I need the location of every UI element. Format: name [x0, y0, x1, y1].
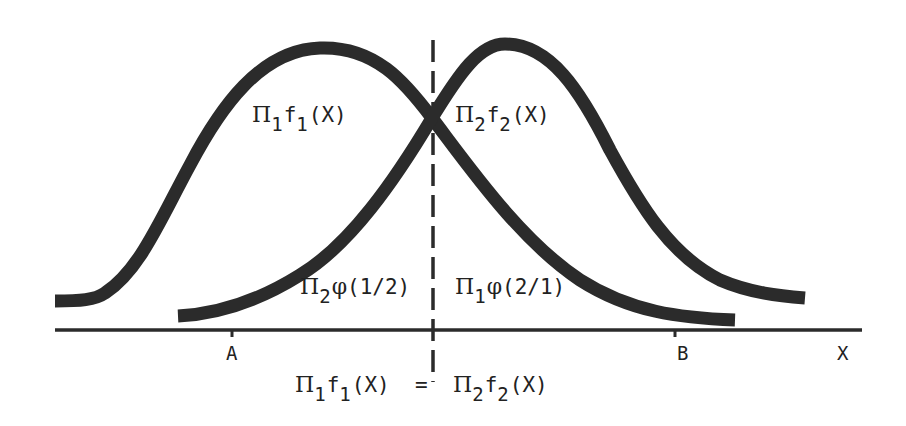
boundary-equation: Π1f1(X) = Π2f2(X) — [295, 374, 548, 396]
subscript: 2 — [497, 383, 508, 405]
phi-symbol: φ — [332, 274, 347, 299]
region-label-left: Π2φ(1/2) — [300, 276, 410, 298]
tick-label-b: B — [677, 344, 688, 363]
subscript: 1 — [314, 383, 325, 405]
region-label-right: Π1φ(2/1) — [455, 276, 565, 298]
f-symbol: f — [485, 373, 498, 397]
f-symbol: f — [327, 373, 340, 397]
argument: (1/2) — [347, 275, 410, 299]
subscript: 1 — [271, 113, 282, 135]
pi-symbol: Π — [453, 372, 472, 397]
f-symbol: f — [487, 103, 500, 127]
diagram-graphics — [0, 0, 906, 426]
argument: (X) — [512, 103, 550, 127]
subscript: 2 — [319, 285, 330, 307]
argument: (X) — [510, 373, 548, 397]
subscript: 2 — [474, 113, 485, 135]
pi-symbol: Π — [252, 102, 271, 127]
pi-symbol: Π — [455, 274, 474, 299]
equals-sign: = — [402, 375, 440, 396]
label-pi1-f1: Π1f1(X) — [252, 104, 347, 126]
argument: (2/1) — [502, 275, 565, 299]
subscript: 2 — [499, 113, 510, 135]
subscript: 1 — [474, 285, 485, 307]
subscript: 2 — [472, 383, 483, 405]
pi-symbol: Π — [300, 274, 319, 299]
tick-label-a: A — [226, 344, 237, 363]
equation-rhs: Π2f2(X) — [453, 373, 548, 397]
diagram-canvas: Π1f1(X) Π2f2(X) Π2φ(1/2) Π1φ(2/1) A B X … — [0, 0, 906, 426]
label-pi2-f2: Π2f2(X) — [455, 104, 550, 126]
equation-lhs: Π1f1(X) — [295, 373, 390, 397]
pi-symbol: Π — [455, 102, 474, 127]
subscript: 1 — [339, 383, 350, 405]
subscript: 1 — [296, 113, 307, 135]
x-axis-label: X — [837, 344, 848, 363]
argument: (X) — [309, 103, 347, 127]
phi-symbol: φ — [487, 274, 502, 299]
f-symbol: f — [284, 103, 297, 127]
argument: (X) — [352, 373, 390, 397]
pi-symbol: Π — [295, 372, 314, 397]
